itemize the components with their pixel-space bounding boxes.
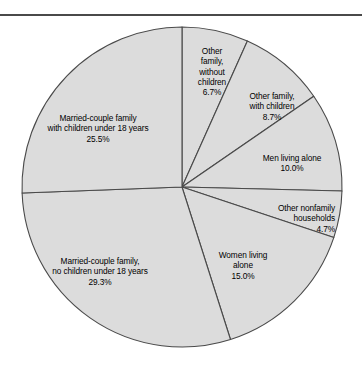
- slice-label-text: Married-couple family with children unde…: [48, 113, 149, 133]
- slice-label-married-couple-with-children: Married-couple family with children unde…: [24, 103, 172, 154]
- slice-label-text: Other nonfamily households: [278, 203, 335, 223]
- slice-label-percent: 25.5%: [24, 134, 172, 144]
- slice-label-other-nonfamily-households: Other nonfamily households 4.7%: [237, 193, 335, 244]
- pie-chart-figure: Married-couple family with children unde…: [0, 0, 362, 369]
- slice-label-percent: 8.7%: [233, 112, 311, 122]
- slice-label-married-couple-no-children: Married-couple family, no children under…: [24, 246, 176, 297]
- slice-label-other-family-without-children: Other family, without children 6.7%: [184, 36, 240, 107]
- slice-label-percent: 29.3%: [24, 277, 176, 287]
- slice-label-women-living-alone: Women living alone 15.0%: [198, 240, 288, 291]
- slice-label-percent: 15.0%: [198, 271, 288, 281]
- slice-label-percent: 10.0%: [244, 163, 340, 173]
- pie-chart-graphic: [0, 0, 362, 369]
- slice-label-text: Women living alone: [219, 250, 267, 270]
- slice-label-text: Married-couple family, no children under…: [52, 256, 148, 276]
- slice-label-men-living-alone: Men living alone 10.0%: [244, 143, 340, 184]
- slice-label-percent: 4.7%: [237, 224, 335, 234]
- slice-label-text: Men living alone: [263, 153, 321, 163]
- slice-label-other-family-with-children: Other family, with children 8.7%: [233, 81, 311, 132]
- slice-label-text: Other family, without children: [198, 46, 226, 87]
- pie-slices: [22, 27, 342, 347]
- slice-label-text: Other family, with children: [249, 91, 294, 111]
- slice-label-percent: 6.7%: [184, 87, 240, 97]
